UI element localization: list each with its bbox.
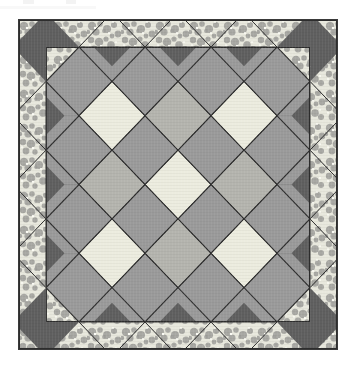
quilt-frame [18,19,338,350]
scan-artifact [0,6,96,9]
fabric-texture-overlay [19,20,337,349]
scan-artifact [23,0,34,4]
scan-artifact [66,0,76,4]
quilt-illustration [19,20,337,349]
page-root [0,0,354,369]
